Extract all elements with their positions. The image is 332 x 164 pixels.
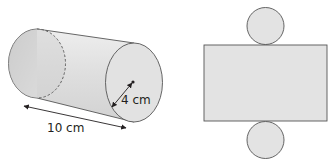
diagram-canvas: 4 cm 10 cm <box>0 0 332 164</box>
net-rectangle <box>204 45 327 121</box>
cylinder-net <box>204 8 327 159</box>
length-label: 10 cm <box>47 121 84 135</box>
radius-label: 4 cm <box>121 93 151 107</box>
cylinder: 4 cm 10 cm <box>9 29 163 135</box>
net-bottom-circle <box>247 122 284 159</box>
net-top-circle <box>247 8 284 45</box>
